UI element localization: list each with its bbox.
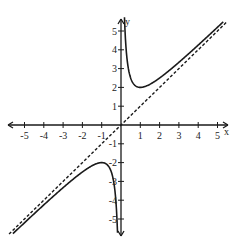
x-tick-label: -2 xyxy=(78,130,86,141)
x-tick-label: 3 xyxy=(176,130,181,141)
x-tick-label: -3 xyxy=(59,130,67,141)
x-axis-label: x xyxy=(224,126,229,137)
x-tick-label: 1 xyxy=(138,130,143,141)
x-tick-label: 5 xyxy=(215,130,220,141)
y-tick-label: 5 xyxy=(112,26,117,37)
x-tick-label: -4 xyxy=(40,130,48,141)
x-tick-label: 4 xyxy=(196,130,201,141)
y-tick-label: 2 xyxy=(112,82,117,93)
y-tick-label: 1 xyxy=(112,101,117,112)
y-tick-label: -1 xyxy=(109,138,117,149)
y-tick-label: 4 xyxy=(112,44,117,55)
function-graph: -5-4-3-2-11234554321-1-2-3-4-5 x y xyxy=(0,0,238,242)
y-tick-label: -5 xyxy=(109,214,117,225)
x-tick-label: 2 xyxy=(157,130,162,141)
y-tick-label: 3 xyxy=(112,63,117,74)
x-tick-label: -5 xyxy=(20,130,28,141)
y-tick-label: -3 xyxy=(109,176,117,187)
y-tick-label: -4 xyxy=(109,195,117,206)
y-axis-label: y xyxy=(125,16,130,27)
y-tick-label: -2 xyxy=(109,157,117,168)
x-tick-label: -1 xyxy=(98,130,106,141)
curve-left-branch xyxy=(13,163,118,234)
asymptote-line xyxy=(9,22,227,234)
curve-right-branch xyxy=(124,17,223,87)
